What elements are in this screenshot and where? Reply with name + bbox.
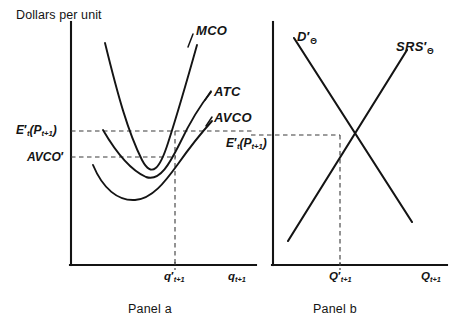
panel-b-x-axis-sub: t+1 — [430, 275, 441, 284]
panel-a-price-paren-open: (P — [29, 123, 41, 137]
panel-a-price-main: E — [16, 123, 24, 137]
panel-b-price-main: E — [226, 136, 234, 150]
panel-a-price-paren-close: ) — [53, 123, 57, 137]
short-run-supply-curve — [288, 50, 407, 241]
panel-a-x-tick-main: q — [164, 270, 171, 282]
panel-a-price-label: E′t(Pt+1) — [16, 124, 57, 136]
panel-b-price-paren-close: ) — [263, 136, 267, 150]
panel-b-x-tick-label: Q′t+1 — [329, 271, 352, 283]
panel-b-caption: Panel b — [313, 303, 357, 316]
panel-a-label-leaders — [188, 34, 212, 126]
panel-a-x-tick-sub: t+1 — [174, 275, 185, 284]
panel-a-price-sub2: t+1 — [41, 129, 52, 138]
y-axis-title: Dollars per unit — [16, 9, 102, 22]
demand-curve — [294, 38, 412, 222]
curve-label-srs-sub: Θ — [427, 46, 434, 56]
curve-label-demand-main: D — [297, 29, 307, 44]
marginal-cost-curve — [105, 43, 197, 170]
mco-leader — [188, 34, 193, 47]
panel-b-x-axis-main: Q — [421, 270, 430, 282]
curve-label-demand-sub: Θ — [310, 36, 317, 46]
panel-b-axes — [272, 22, 447, 265]
economics-figure: Dollars per unit MCO ATC AVCO E′t(Pt+1) … — [0, 0, 456, 329]
average-total-cost-curve — [103, 92, 211, 178]
panel-a-x-axis-main: q — [228, 270, 235, 282]
panel-b-x-tick-sub: t+1 — [341, 275, 352, 284]
panel-a-guides — [71, 131, 255, 266]
panel-a-avco-min-prime: ′ — [61, 150, 64, 164]
curve-label-demand: D′Θ — [297, 30, 317, 43]
panel-b-x-tick-main: Q — [329, 270, 338, 282]
panel-b-x-axis-label: Qt+1 — [421, 271, 441, 283]
panel-a-x-tick-label: q′t+1 — [164, 271, 185, 283]
curve-label-srs: SRS′Θ — [396, 40, 434, 53]
panel-b-curves — [288, 38, 412, 241]
curve-label-atc-text: ATC — [214, 84, 241, 99]
panel-b-price-paren-open: (P — [239, 136, 251, 150]
curve-label-avco: AVCO — [214, 111, 252, 124]
panel-b-price-label: E′t(Pt+1) — [226, 137, 267, 149]
panel-a-curves — [93, 43, 212, 200]
curve-label-mco-text: MCO — [196, 23, 227, 38]
panel-a-x-axis-sub: t+1 — [235, 275, 246, 284]
curve-label-mco: MCO — [196, 24, 227, 37]
panel-a-avco-min-main: AVCO — [27, 150, 61, 164]
atc-leader — [205, 91, 211, 100]
curve-label-srs-main: SRS — [396, 39, 424, 54]
curve-label-atc: ATC — [214, 85, 241, 98]
average-variable-cost-curve — [93, 121, 212, 200]
panel-a-x-axis-label: qt+1 — [228, 271, 246, 283]
curve-label-avco-text: AVCO — [214, 110, 252, 125]
panel-b-price-sub2: t+1 — [251, 142, 262, 151]
panel-a-caption: Panel a — [128, 303, 172, 316]
panel-a-avco-min-label: AVCO′ — [27, 151, 64, 163]
panel-b-guides — [251, 135, 340, 266]
